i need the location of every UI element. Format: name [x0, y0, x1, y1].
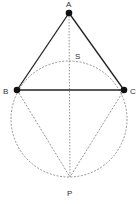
segment-b-p: [17, 90, 70, 177]
label-s: S: [75, 52, 80, 61]
label-b: B: [3, 87, 8, 96]
point-c: [121, 87, 128, 94]
geometry-diagram: A B C S P: [0, 0, 137, 204]
label-a: A: [66, 0, 72, 9]
point-a: [66, 10, 73, 17]
segment-c-p: [70, 90, 124, 177]
segment-a-b: [17, 13, 69, 90]
label-p: P: [67, 189, 72, 198]
point-b: [14, 87, 21, 94]
circumcircle: [11, 61, 127, 177]
segment-a-p: [69, 13, 70, 177]
label-c: C: [130, 87, 136, 96]
